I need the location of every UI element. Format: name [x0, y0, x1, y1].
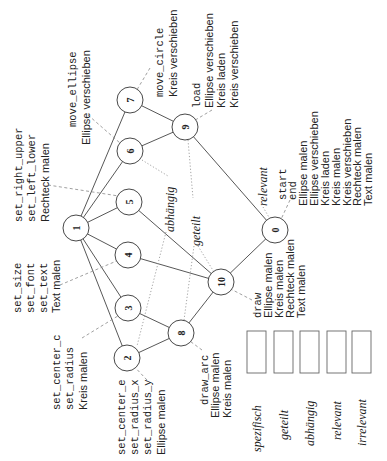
- edge-1-3: [76, 228, 128, 308]
- node-9: 9: [172, 114, 198, 140]
- object-label: Kreis verschieben: [228, 21, 240, 108]
- object-label: Kreis verschieben: [167, 10, 179, 97]
- object-label: Text malen: [295, 265, 307, 318]
- node-8: 8: [168, 320, 194, 346]
- labels-node-3: set_center_c set_radius Kreis malen: [51, 334, 89, 410]
- node-label: 8: [176, 331, 187, 336]
- legend-label-spezifisch: spezifisch: [250, 405, 264, 452]
- node-3: 3: [115, 295, 141, 321]
- labels-node-4: set_size set_font set_text Text malen: [12, 260, 62, 313]
- dotted-9-geteilt: [188, 140, 193, 198]
- node-4: 4: [115, 242, 141, 268]
- node-2: 2: [114, 345, 140, 371]
- attribute-label: move_circle: [154, 28, 166, 97]
- concept-lattice-diagram: 1 2 3 4 5 6 7 8: [0, 0, 387, 461]
- object-label: Ellipse verschieben: [203, 13, 215, 108]
- legend-swatch-relevant: [327, 331, 346, 373]
- region-lines: [137, 140, 270, 346]
- node-label: 5: [124, 200, 135, 205]
- legend-swatch-irrelevant: [352, 331, 371, 373]
- labels-node-0: start end Ellipse malen Ellipse verschie…: [277, 111, 374, 206]
- attribute-label: set_radius_y: [142, 379, 154, 455]
- attribute-label: set_center_e: [116, 379, 128, 455]
- node-label: 9: [180, 125, 191, 130]
- attribute-label: set_left_lower: [26, 134, 38, 222]
- labels-node-2: set_center_e set_radius_x set_radius_y E…: [116, 379, 167, 455]
- node-label: 7: [125, 98, 136, 103]
- object-label: Text malen: [50, 260, 62, 313]
- edge-4-10: [128, 255, 221, 282]
- labels-node-9: load Ellipse verschieben Kreis laden Kre…: [191, 13, 240, 108]
- connector-5: [48, 185, 125, 197]
- legend: spezifisch geteilt abhängig relevant irr…: [247, 331, 371, 452]
- legend-swatch-spezifisch: [247, 331, 266, 373]
- labels-node-10: draw Ellipse malen Kreis malen Rechteck …: [252, 239, 307, 318]
- region-label-geteilt: geteilt: [189, 215, 203, 246]
- dotted-abhaengig-2: [137, 232, 166, 346]
- legend-label-irrelevant: irrelevant: [355, 398, 369, 446]
- node-label: 2: [122, 356, 133, 361]
- legend-swatch-abhaengig: [300, 331, 319, 373]
- attribute-label: set_center_c: [51, 334, 63, 410]
- node-label: 10: [216, 277, 227, 287]
- object-label: Rechteck malen: [39, 143, 51, 222]
- attribute-label: set_radius: [64, 347, 76, 410]
- region-label-abhaengig: abhängig: [163, 187, 177, 232]
- object-label: Kreis malen: [77, 352, 89, 410]
- object-label: Ellipse malen: [155, 390, 167, 455]
- labels-node-8: draw_arc Ellipse malen Kreis malen: [199, 353, 233, 418]
- node-1: 1: [63, 215, 89, 241]
- object-label: Ellipse malen: [209, 353, 221, 418]
- dotted-6-abhaengig: [142, 160, 168, 176]
- dotted-geteilt-10: [198, 246, 214, 272]
- node-0: 0: [262, 217, 288, 243]
- legend-label-geteilt: geteilt: [277, 409, 291, 440]
- node-label: 4: [123, 253, 134, 258]
- legend-swatch-geteilt: [274, 331, 293, 373]
- labels-node-6: move_ellipse Ellipse verschieben: [67, 50, 92, 145]
- object-label: Text malen: [362, 153, 374, 206]
- object-label: Kreis laden: [215, 53, 227, 108]
- labels-node-7: move_circle Kreis verschieben: [154, 10, 179, 97]
- node-6: 6: [117, 138, 143, 164]
- attribute-label: set_radius_x: [129, 379, 141, 455]
- attribute-label: move_ellipse: [67, 51, 79, 127]
- attribute-label: set_right_upper: [13, 127, 25, 222]
- node-10: 10: [208, 269, 234, 295]
- legend-label-abhaengig: abhängig: [303, 401, 317, 446]
- node-5: 5: [116, 189, 142, 215]
- object-label: Ellipse verschieben: [80, 50, 92, 145]
- node-label: 1: [71, 226, 82, 231]
- region-label-relevant: relevant: [256, 166, 270, 206]
- labels-node-5: set_right_upper set_left_lower Rechteck …: [13, 127, 51, 222]
- attribute-label: set_text: [38, 263, 50, 313]
- legend-label-relevant: relevant: [330, 400, 344, 440]
- edge-1-6: [76, 151, 130, 228]
- node-label: 6: [125, 149, 136, 154]
- node-label: 3: [123, 306, 134, 311]
- node-label: 0: [270, 228, 281, 233]
- attribute-label: set_font: [25, 263, 37, 313]
- object-label: Kreis malen: [221, 360, 233, 418]
- node-7: 7: [117, 87, 143, 113]
- attribute-label: set_size: [12, 263, 24, 313]
- attribute-label: load: [191, 83, 203, 108]
